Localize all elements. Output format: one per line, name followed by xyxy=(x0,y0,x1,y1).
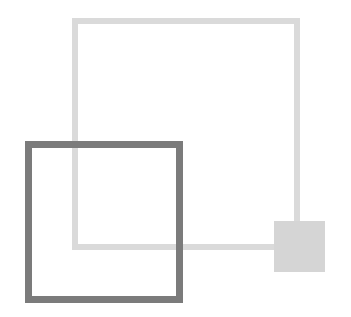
small-filled-square xyxy=(274,221,325,272)
dark-square-outline xyxy=(25,141,183,303)
